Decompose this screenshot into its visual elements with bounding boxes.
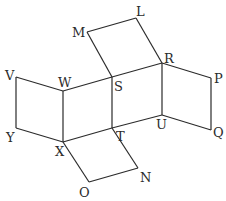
edge-MS (87, 32, 112, 77)
label-P: P (214, 71, 223, 86)
solid-net-diagram: M L V W S R P Y X T U Q O N (0, 0, 226, 201)
label-W: W (58, 75, 72, 90)
label-U: U (156, 117, 167, 132)
label-S: S (114, 79, 123, 94)
label-L: L (136, 4, 145, 19)
edge-XT (63, 128, 112, 142)
edge-UQ (162, 115, 211, 130)
label-Y: Y (5, 130, 15, 145)
edge-VW (16, 77, 63, 91)
edge-TU (112, 115, 162, 128)
edge-SR (112, 63, 162, 77)
vertex-labels: M L V W S R P Y X T U Q O N (4, 4, 224, 200)
label-X: X (55, 144, 65, 159)
edge-YX (16, 128, 63, 142)
edge-XO (63, 142, 89, 182)
edges (16, 18, 211, 182)
label-T: T (116, 129, 125, 144)
label-R: R (164, 51, 175, 66)
label-Q: Q (213, 125, 224, 140)
label-N: N (140, 170, 151, 185)
label-V: V (4, 68, 15, 83)
label-M: M (72, 25, 85, 40)
edge-LR (136, 18, 162, 63)
edge-ON (89, 168, 138, 182)
edge-ML (87, 18, 136, 32)
label-O: O (79, 185, 90, 200)
